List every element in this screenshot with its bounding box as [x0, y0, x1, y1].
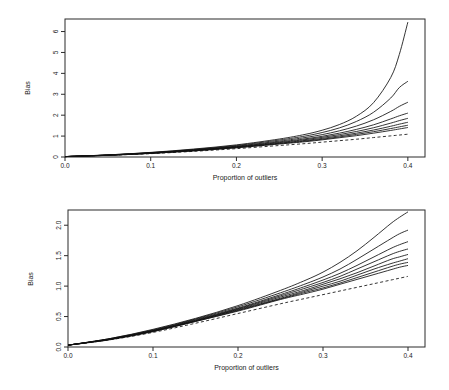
y-tick-label: 5 — [52, 50, 59, 54]
x-tick-label: 0.0 — [63, 352, 72, 359]
y-tick-label: 0 — [52, 155, 59, 159]
data-curve-curve-1 — [65, 22, 408, 156]
plot-frame — [68, 210, 425, 347]
x-tick-label: 0.1 — [148, 352, 157, 359]
data-curve-curve-2 — [65, 81, 408, 156]
data-curve-curve-7 — [65, 125, 408, 156]
data-curve-curve-6 — [68, 259, 408, 345]
y-tick-label: 4 — [52, 71, 59, 75]
data-curve-curve-4 — [68, 249, 408, 345]
y-tick-label: 2.0 — [55, 220, 62, 229]
y-tick-label: 1.5 — [55, 251, 62, 260]
chart-panel-bottom: 0.00.10.20.30.40.00.51.01.52.0Proportion… — [0, 195, 449, 390]
x-tick-label: 0.0 — [60, 162, 69, 169]
data-curve-curve-3 — [68, 242, 408, 346]
y-tick-label: 1.0 — [55, 281, 62, 290]
y-axis-title: Bias — [27, 272, 34, 286]
x-tick-label: 0.1 — [146, 162, 155, 169]
y-tick-label: 0.5 — [55, 312, 62, 321]
x-tick-label: 0.3 — [318, 352, 327, 359]
x-axis-title: Proportion of outliers — [213, 174, 278, 182]
x-axis-title: Proportion of outliers — [214, 364, 279, 372]
x-tick-label: 0.4 — [403, 162, 412, 169]
chart-panel-top: 0.00.10.20.30.40123456Proportion of outl… — [0, 0, 449, 195]
x-tick-label: 0.2 — [233, 352, 242, 359]
y-tick-label: 2 — [52, 113, 59, 117]
y-axis-title: Bias — [24, 81, 31, 95]
y-tick-label: 3 — [52, 92, 59, 96]
data-curve-curve-1 — [68, 212, 408, 345]
chart-svg-top: 0.00.10.20.30.40123456Proportion of outl… — [0, 0, 449, 195]
x-tick-label: 0.3 — [318, 162, 327, 169]
data-curve-curve-5 — [68, 254, 408, 345]
y-tick-label: 0.0 — [55, 342, 62, 351]
figure-container: 0.00.10.20.30.40123456Proportion of outl… — [0, 0, 449, 390]
data-curve-curve-5 — [65, 118, 408, 156]
x-tick-label: 0.4 — [403, 352, 412, 359]
data-curve-curve-2 — [68, 230, 408, 345]
plot-frame — [65, 19, 425, 157]
y-tick-label: 1 — [52, 134, 59, 138]
y-tick-label: 6 — [52, 29, 59, 33]
x-tick-label: 0.2 — [232, 162, 241, 169]
chart-svg-bottom: 0.00.10.20.30.40.00.51.01.52.0Proportion… — [0, 195, 449, 390]
